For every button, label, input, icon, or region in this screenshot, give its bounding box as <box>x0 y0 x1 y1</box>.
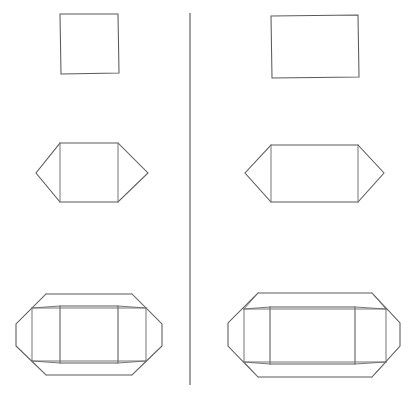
canvas-background <box>0 0 417 395</box>
geometric-net-diagram <box>0 0 417 395</box>
figure-root <box>0 0 417 395</box>
